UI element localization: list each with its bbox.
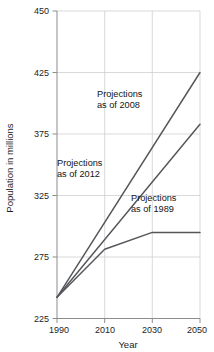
x-tick-label-2010: 2010 (95, 325, 115, 335)
x-axis-title: Year (118, 339, 137, 350)
y-tick-label-275: 275 (34, 252, 49, 262)
x-tick-marks (57, 319, 200, 324)
annotation-2008-line1: Projections (97, 89, 143, 99)
series-line-projections-2008 (57, 124, 200, 297)
annotation-2008: Projections as of 2008 (97, 89, 143, 110)
y-axis-title: Population in millions (4, 123, 15, 212)
annotation-2012-line1: Projections (57, 158, 103, 168)
annotation-1989: Projections as of 1989 (131, 193, 177, 214)
annotation-2008-line2: as of 2008 (97, 100, 140, 110)
y-tick-labels: 450 425 375 325 275 225 (34, 6, 49, 324)
y-tick-label-225: 225 (34, 314, 49, 324)
x-tick-label-2030: 2030 (142, 325, 162, 335)
chart-container: 450 425 375 325 275 225 1990 2010 2030 2… (0, 0, 214, 352)
x-tick-label-2050: 2050 (187, 325, 207, 335)
annotation-1989-line1: Projections (131, 193, 177, 203)
y-tick-label-425: 425 (34, 68, 49, 78)
annotation-1989-line2: as of 1989 (131, 204, 174, 214)
population-projections-line-chart: 450 425 375 325 275 225 1990 2010 2030 2… (0, 0, 214, 352)
y-tick-label-325: 325 (34, 191, 49, 201)
x-tick-labels: 1990 2010 2030 2050 (49, 325, 207, 335)
x-tick-label-1990: 1990 (49, 325, 69, 335)
annotation-2012-line2: as of 2012 (57, 169, 100, 179)
y-tick-label-450: 450 (34, 6, 49, 16)
annotation-2012: Projections as of 2012 (57, 158, 103, 179)
y-tick-label-375: 375 (34, 129, 49, 139)
